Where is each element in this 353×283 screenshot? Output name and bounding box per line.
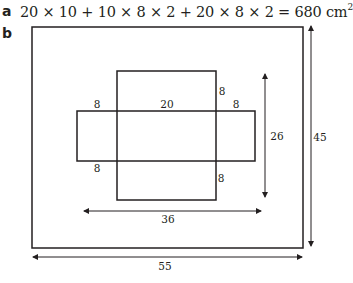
equation-exponent: 2: [347, 2, 353, 12]
label-net-width: 36: [161, 213, 174, 225]
net-vertical-strip: [117, 71, 216, 200]
label-center-width: 20: [160, 98, 173, 110]
label-top-left-flap: 8: [94, 98, 101, 110]
net-horizontal-strip: [77, 111, 255, 161]
label-outer-height: 45: [313, 131, 326, 143]
label-net-height: 26: [270, 130, 283, 142]
label-bottom-flap-height: 8: [218, 172, 225, 184]
label-top-right-flap: 8: [233, 98, 240, 110]
label-outer-width: 55: [158, 260, 171, 272]
label-bottom-left-flap: 8: [94, 162, 101, 174]
label-top-flap-height: 8: [219, 85, 226, 97]
